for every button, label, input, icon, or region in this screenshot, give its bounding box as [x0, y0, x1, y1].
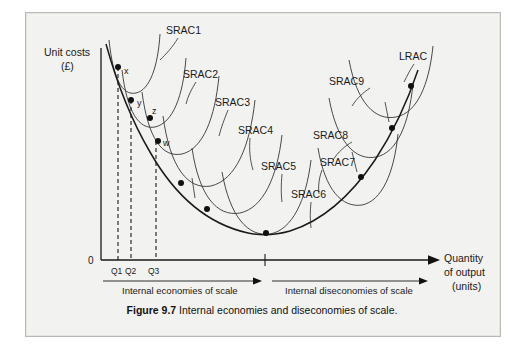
- srac8-label: SRAC8: [313, 129, 348, 141]
- tangency-dot-w: [155, 138, 161, 144]
- srac4-label: SRAC4: [238, 124, 273, 136]
- srac2-leader: [186, 82, 196, 104]
- y-axis-title-line1: Unit costs: [44, 46, 90, 58]
- origin-label: 0: [88, 255, 94, 266]
- srac8-curve: [329, 84, 413, 158]
- srac4-curve: [163, 100, 255, 186]
- axes-group: [101, 48, 440, 266]
- tangency-dot-x: [115, 64, 121, 70]
- x-tick-label-q3: Q3: [148, 266, 160, 276]
- srac1-leader: [160, 38, 178, 60]
- x-tick-label-q1: Q1: [111, 266, 123, 276]
- point-label-z: z: [152, 106, 157, 116]
- economies-of-scale-diagram: x y z w SRAC1 SRAC2 SRAC3 SRAC4 SRAC5 SR…: [0, 0, 524, 351]
- srac9-label: SRAC9: [329, 75, 364, 87]
- srac5-curve: [192, 135, 282, 213]
- diseconomies-range-label: Internal diseconomies of scale: [285, 285, 413, 296]
- srac3-leader: [219, 110, 228, 136]
- x-axis-title-group: Quantity of output (units): [444, 252, 485, 292]
- tangency-dot-7: [263, 230, 269, 236]
- tangency-dot-y: [128, 97, 134, 103]
- figure-page: x y z w SRAC1 SRAC2 SRAC3 SRAC4 SRAC5 SR…: [0, 0, 524, 351]
- srac9-tangency-tick: [385, 102, 389, 122]
- economies-range-arrowhead: [253, 277, 262, 284]
- point-label-y: y: [137, 98, 142, 108]
- srac-leader-lines: [160, 38, 414, 228]
- srac7-label: SRAC7: [320, 156, 355, 168]
- tangency-dot-10: [408, 83, 414, 89]
- tangency-dots-group: [115, 64, 414, 236]
- srac1-curve: [109, 34, 160, 93]
- figure-caption-prefix: Figure 9.7: [127, 304, 177, 316]
- srac6-label: SRAC6: [291, 188, 326, 200]
- economies-range-group: Internal economies of scale: [103, 277, 262, 296]
- srac6-leader: [310, 202, 311, 228]
- point-label-w: w: [162, 138, 170, 148]
- point-label-x: x: [124, 66, 129, 76]
- tangency-dot-5: [178, 180, 184, 186]
- diseconomies-range-arrowhead: [419, 277, 428, 284]
- tangency-dot-8: [358, 174, 364, 180]
- diseconomies-range-group: Internal diseconomies of scale: [272, 277, 428, 296]
- figure-caption-text: Internal economies and diseconomies of s…: [179, 304, 397, 316]
- srac5-leader: [281, 174, 282, 202]
- srac2-label: SRAC2: [183, 68, 218, 80]
- tangency-dot-6: [204, 206, 210, 212]
- srac7-curve: [318, 134, 398, 205]
- srac-labels-group: SRAC1 SRAC2 SRAC3 SRAC4 SRAC5 SRAC6 SRAC…: [166, 24, 427, 200]
- x-axis-title-line1: Quantity: [444, 252, 484, 264]
- tangency-dot-9: [389, 125, 395, 131]
- lrac-label: LRAC: [399, 50, 427, 62]
- y-axis-title-group: Unit costs (£): [44, 46, 90, 72]
- x-axis-arrowhead: [428, 255, 440, 265]
- figure-caption: Figure 9.7 Internal economies and diseco…: [25, 304, 499, 316]
- srac3-label: SRAC3: [215, 96, 250, 108]
- y-axis-title-line2: (£): [61, 60, 74, 72]
- x-axis-title-line2: of output: [444, 266, 485, 278]
- x-tick-labels-group: Q1 Q2 Q3: [111, 266, 160, 276]
- srac-tangency-ticks: [192, 102, 389, 198]
- srac4-leader: [250, 138, 253, 170]
- x-tick-label-q2: Q2: [125, 266, 137, 276]
- srac5-tangency-tick: [192, 178, 195, 198]
- x-axis-title-line3: (units): [452, 280, 481, 292]
- economies-range-label: Internal economies of scale: [122, 285, 238, 296]
- lrac-leader: [404, 64, 414, 82]
- srac5-label: SRAC5: [261, 160, 296, 172]
- srac1-label: SRAC1: [166, 24, 201, 36]
